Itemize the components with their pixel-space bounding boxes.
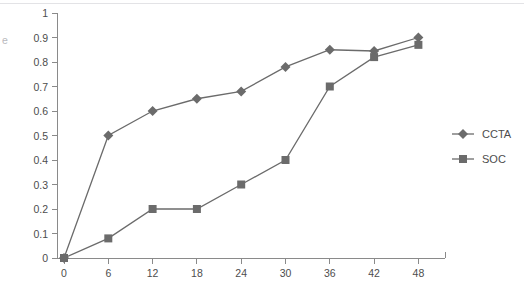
y-tick-label: 0.5	[33, 130, 48, 142]
legend-label: SOC	[482, 153, 506, 165]
data-point-diamond-marker	[458, 129, 468, 139]
y-tick-label: 0.3	[33, 179, 48, 191]
data-point-square-marker	[237, 181, 245, 189]
y-tick-label: 0.2	[33, 203, 48, 215]
line-chart-plot: 00.10.20.30.40.50.60.70.80.91 0612182430…	[0, 0, 524, 286]
data-point-square-marker	[193, 205, 201, 213]
x-tick-label: 6	[105, 267, 111, 279]
x-axis: 0612182430364248	[57, 252, 445, 279]
x-tick-label: 18	[191, 267, 203, 279]
y-tick-label: 0.4	[33, 154, 48, 166]
data-point-square-marker	[282, 156, 290, 164]
data-point-diamond-marker	[325, 45, 335, 55]
data-point-square-marker	[149, 205, 157, 213]
legend-label: CCTA	[482, 128, 512, 140]
y-tick-label: 0.9	[33, 32, 48, 44]
x-tick-label: 42	[368, 267, 380, 279]
data-point-square-marker	[60, 254, 68, 262]
data-point-diamond-marker	[148, 106, 158, 116]
series-line-path	[64, 45, 418, 258]
y-tick-label: 0	[42, 252, 48, 264]
series-ccta	[59, 33, 423, 264]
y-tick-label: 1	[42, 7, 48, 19]
chart-legend: CCTASOC	[452, 128, 512, 165]
legend-item-ccta: CCTA	[452, 128, 512, 140]
x-tick-label: 0	[61, 267, 67, 279]
chart-container: 00.10.20.30.40.50.60.70.80.91 0612182430…	[0, 0, 524, 286]
x-tick-label: 48	[413, 267, 425, 279]
data-point-square-marker	[326, 83, 334, 91]
x-tick-label: 36	[324, 267, 336, 279]
x-tick-label: 30	[280, 267, 292, 279]
series-soc	[60, 41, 422, 262]
data-point-diamond-marker	[281, 62, 291, 72]
series-line-path	[64, 38, 418, 259]
x-tick-label: 12	[147, 267, 159, 279]
data-point-diamond-marker	[192, 94, 202, 104]
data-point-square-marker	[370, 53, 378, 61]
y-axis-label-partial: e	[2, 34, 8, 46]
y-axis-label: e	[2, 34, 8, 46]
data-point-diamond-marker	[236, 86, 246, 96]
legend-item-soc: SOC	[452, 153, 506, 165]
y-axis: 00.10.20.30.40.50.60.70.80.91	[33, 7, 57, 264]
y-tick-label: 0.6	[33, 105, 48, 117]
data-point-diamond-marker	[103, 131, 113, 141]
y-tick-label: 0.1	[33, 228, 48, 240]
data-series-group	[59, 33, 423, 264]
y-tick-label: 0.7	[33, 81, 48, 93]
data-point-square-marker	[414, 41, 422, 49]
y-tick-label: 0.8	[33, 56, 48, 68]
data-point-square-marker	[459, 155, 467, 163]
data-point-square-marker	[104, 234, 112, 242]
x-tick-label: 24	[235, 267, 247, 279]
